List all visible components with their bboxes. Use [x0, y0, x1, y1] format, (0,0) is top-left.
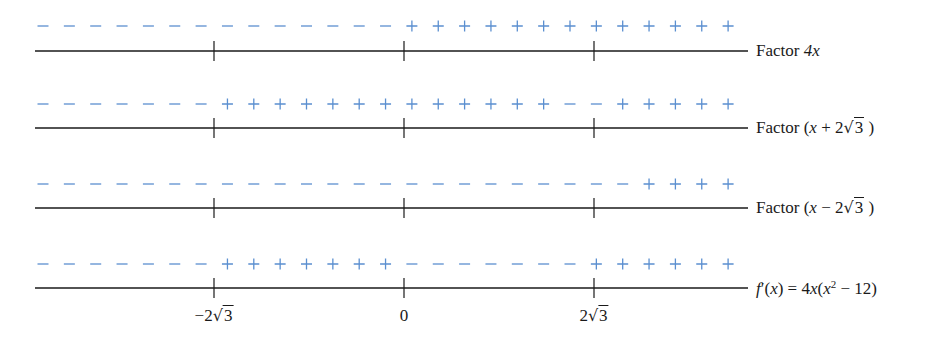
- sign-row-3: [35, 259, 748, 299]
- row-label-derivative: f′(x) = 4x(x2 − 12): [756, 279, 877, 297]
- plus-sign-icon: [617, 259, 628, 270]
- label-var: x: [809, 198, 817, 217]
- plus-sign-icon: [617, 21, 628, 32]
- plus-sign-icon: [644, 21, 655, 32]
- plus-sign-icon: [696, 99, 707, 110]
- sqrt-symbol: √3: [843, 119, 864, 136]
- label-var: x: [770, 279, 778, 298]
- label-text: ) = 4: [778, 279, 810, 298]
- label-var: x: [809, 118, 817, 137]
- plus-sign-icon: [723, 179, 734, 190]
- plus-sign-icon: [327, 99, 338, 110]
- tick-label-zero: 0: [400, 307, 409, 324]
- label-suffix: ): [864, 198, 874, 217]
- plus-sign-icon: [275, 259, 286, 270]
- plus-sign-icon: [301, 99, 312, 110]
- plus-sign-icon: [485, 99, 496, 110]
- label-text: Factor: [756, 41, 804, 60]
- plus-sign-icon: [644, 99, 655, 110]
- plus-sign-icon: [512, 99, 523, 110]
- plus-sign-icon: [538, 99, 549, 110]
- plus-sign-icon: [485, 21, 496, 32]
- plus-sign-icon: [327, 259, 338, 270]
- sign-row-0: [35, 21, 748, 62]
- plus-sign-icon: [591, 259, 602, 270]
- plus-sign-icon: [433, 21, 444, 32]
- plus-sign-icon: [248, 99, 259, 110]
- sqrt-arg: 3: [854, 117, 865, 137]
- label-text: Factor (: [756, 118, 809, 137]
- plus-sign-icon: [538, 21, 549, 32]
- plus-sign-icon: [406, 99, 417, 110]
- plus-sign-icon: [565, 21, 576, 32]
- plus-sign-icon: [459, 99, 470, 110]
- plus-sign-icon: [696, 21, 707, 32]
- label-var: x: [823, 279, 831, 298]
- plus-sign-icon: [354, 259, 365, 270]
- plus-sign-icon: [512, 21, 523, 32]
- plus-sign-icon: [644, 179, 655, 190]
- label-var: 4x: [804, 41, 820, 60]
- tick-label-pos-2-root-3: 2√3: [579, 307, 608, 324]
- sqrt-symbol: √3: [588, 307, 609, 324]
- plus-sign-icon: [696, 179, 707, 190]
- label-op: − 2: [817, 198, 844, 217]
- sqrt-arg: 3: [854, 197, 865, 217]
- sign-row-2: [35, 179, 748, 219]
- tick-value: 0: [400, 306, 409, 325]
- tick-prefix: 2: [579, 306, 588, 325]
- tick-label-neg-2-root-3: −2√3: [195, 307, 234, 324]
- plus-sign-icon: [617, 99, 628, 110]
- sqrt-arg: 3: [598, 305, 609, 325]
- plus-sign-icon: [433, 99, 444, 110]
- plus-sign-icon: [275, 99, 286, 110]
- label-text: − 12): [836, 279, 877, 298]
- plus-sign-icon: [301, 259, 312, 270]
- row-label-factor-x-minus: Factor (x − 2√3 ): [756, 199, 874, 216]
- plus-sign-icon: [248, 259, 259, 270]
- plus-sign-icon: [670, 99, 681, 110]
- plus-sign-icon: [644, 259, 655, 270]
- label-op: + 2: [817, 118, 844, 137]
- plus-sign-icon: [723, 21, 734, 32]
- plus-sign-icon: [670, 179, 681, 190]
- row-label-factor-x-plus: Factor (x + 2√3 ): [756, 119, 874, 136]
- plus-sign-icon: [380, 259, 391, 270]
- plus-sign-icon: [591, 21, 602, 32]
- plus-sign-icon: [459, 21, 470, 32]
- sign-row-1: [35, 99, 748, 139]
- label-text: Factor (: [756, 198, 809, 217]
- sqrt-symbol: √3: [213, 307, 234, 324]
- plus-sign-icon: [670, 259, 681, 270]
- plus-sign-icon: [354, 99, 365, 110]
- label-text: ′(: [761, 279, 770, 298]
- plus-sign-icon: [723, 99, 734, 110]
- label-suffix: ): [864, 118, 874, 137]
- plus-sign-icon: [380, 99, 391, 110]
- plus-sign-icon: [222, 99, 233, 110]
- plus-sign-icon: [222, 259, 233, 270]
- plus-sign-icon: [723, 259, 734, 270]
- sqrt-arg: 3: [223, 305, 234, 325]
- plus-sign-icon: [670, 21, 681, 32]
- sqrt-symbol: √3: [843, 199, 864, 216]
- plus-sign-icon: [696, 259, 707, 270]
- row-label-factor-4x: Factor 4x: [756, 42, 820, 59]
- tick-prefix: −2: [195, 306, 213, 325]
- plus-sign-icon: [406, 21, 417, 32]
